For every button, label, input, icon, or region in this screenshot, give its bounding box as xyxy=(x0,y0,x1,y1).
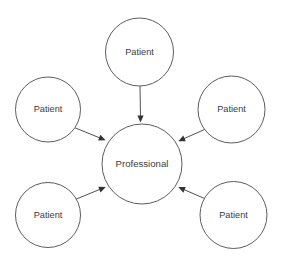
node-patient-top-label: Patient xyxy=(125,47,154,57)
edge-lower-left-line xyxy=(74,189,102,200)
node-patient-top[interactable]: Patient xyxy=(106,18,174,86)
diagram-canvas: Patient Patient Patient Patient Patient … xyxy=(0,0,281,265)
edge-top-arrowhead xyxy=(137,116,143,123)
edge-top[interactable] xyxy=(137,86,143,123)
edge-lower-right[interactable] xyxy=(178,187,208,200)
node-professional-label: Professional xyxy=(116,158,169,169)
edge-lower-left-arrowhead xyxy=(98,187,106,193)
edge-top-line xyxy=(140,86,141,118)
edge-upper-left-line xyxy=(73,127,102,139)
edge-lower-left[interactable] xyxy=(74,187,106,200)
edge-upper-left[interactable] xyxy=(73,127,106,141)
node-patient-upper-right[interactable]: Patient xyxy=(198,76,265,143)
node-patient-lower-right-label: Patient xyxy=(219,210,248,220)
node-patient-lower-left-label: Patient xyxy=(34,210,63,220)
node-patient-upper-left[interactable]: Patient xyxy=(16,77,81,142)
hub-and-spoke-diagram: Patient Patient Patient Patient Patient … xyxy=(0,0,281,265)
node-patient-lower-left[interactable]: Patient xyxy=(16,183,81,248)
node-patient-upper-left-label: Patient xyxy=(34,104,63,114)
node-patient-lower-right[interactable]: Patient xyxy=(200,182,267,249)
node-professional[interactable]: Professional xyxy=(102,124,182,204)
node-patient-upper-right-label: Patient xyxy=(217,104,246,114)
